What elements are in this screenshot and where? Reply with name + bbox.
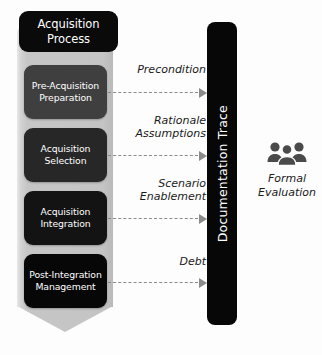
process-header: Acquisition Process xyxy=(19,11,118,52)
flow-arrow-rationale-assumptions xyxy=(108,150,207,161)
process-column-arrow-point xyxy=(17,306,113,332)
documentation-trace-bar[interactable]: Documentation Trace xyxy=(207,22,237,325)
arrow-head-icon xyxy=(199,88,207,98)
dashed-line xyxy=(108,218,198,219)
flow-label-scenario-enablement: Scenario Enablement xyxy=(140,177,206,203)
arrow-head-icon xyxy=(199,214,207,224)
stage-box-acquisition-selection[interactable]: Acquisition Selection xyxy=(24,128,107,182)
flow-arrow-scenario-enablement xyxy=(108,213,207,224)
people-group-icon xyxy=(267,140,307,166)
arrow-head-icon xyxy=(199,278,207,288)
formal-evaluation-label: Formal Evaluation xyxy=(252,172,322,200)
diagram-canvas: Acquisition Process Pre-Acquisition Prep… xyxy=(0,0,322,355)
flow-label-rationale-assumptions: Rationale Assumptions xyxy=(136,114,206,140)
flow-label-precondition: Precondition xyxy=(137,63,206,76)
dashed-line xyxy=(108,282,198,283)
stage-box-acquisition-integration[interactable]: Acquisition Integration xyxy=(24,191,107,245)
arrow-head-icon xyxy=(199,151,207,161)
flow-arrow-debt xyxy=(108,277,207,288)
formal-evaluation-group: Formal Evaluation xyxy=(252,140,322,200)
dashed-line xyxy=(108,92,198,93)
documentation-trace-label: Documentation Trace xyxy=(215,105,230,242)
flow-label-debt: Debt xyxy=(179,255,206,268)
stage-box-pre-acquisition-preparation[interactable]: Pre-Acquisition Preparation xyxy=(24,65,107,119)
dashed-line xyxy=(108,155,198,156)
stage-box-post-integration-management[interactable]: Post-Integration Management xyxy=(24,254,107,308)
flow-arrow-precondition xyxy=(108,87,207,98)
